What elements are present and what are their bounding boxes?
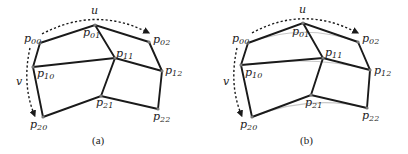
figure-canvas: u v p00 p01 p02 p10 p11 p12 p20 p21 p22 … <box>0 0 408 154</box>
point-p02 <box>147 40 150 43</box>
point-p12 <box>368 68 371 71</box>
mesh-col-0 <box>33 43 43 117</box>
u-label: u <box>91 4 98 17</box>
caption-b: (b) <box>300 134 313 147</box>
label-p22: p22 <box>153 110 170 124</box>
u-label: u <box>299 3 306 16</box>
mesh-col-2 <box>149 42 162 109</box>
mesh-row-1 <box>241 58 370 70</box>
label-p12: p12 <box>374 64 391 78</box>
point-p02 <box>356 40 359 43</box>
point-p12 <box>160 69 163 72</box>
point-p01 <box>93 23 96 26</box>
point-p01 <box>301 21 304 24</box>
mesh-col-0 <box>241 43 252 117</box>
label-p01: p01 <box>292 25 309 39</box>
label-p20: p20 <box>30 118 47 132</box>
panel-a: u v p00 p01 p02 p10 p11 p12 p20 p21 p22 … <box>16 4 182 147</box>
label-p22: p22 <box>362 109 379 123</box>
point-p10 <box>31 65 34 68</box>
label-p00: p00 <box>24 32 41 46</box>
label-p20: p20 <box>240 118 257 132</box>
point-p20 <box>41 115 44 118</box>
v-direction-arrow <box>27 48 34 114</box>
point-p10 <box>239 63 242 66</box>
label-p00: p00 <box>232 32 249 46</box>
label-p11: p11 <box>116 47 133 61</box>
caption-a: (a) <box>92 134 105 147</box>
v-label: v <box>223 75 230 88</box>
mesh-row-1 <box>33 58 162 71</box>
label-p12: p12 <box>165 64 182 78</box>
label-p02: p02 <box>153 33 170 47</box>
label-p10: p10 <box>245 66 262 80</box>
point-p20 <box>250 115 253 118</box>
label-p02: p02 <box>362 32 379 46</box>
panel-b: u v p00 p01 p02 p10 p11 p12 p20 p21 p22 … <box>223 3 391 147</box>
label-p10: p10 <box>37 67 54 81</box>
label-p21: p21 <box>305 96 322 110</box>
mesh-col-2 <box>358 42 370 108</box>
v-direction-arrow <box>234 48 241 114</box>
v-label: v <box>16 75 23 88</box>
label-p11: p11 <box>325 46 342 60</box>
